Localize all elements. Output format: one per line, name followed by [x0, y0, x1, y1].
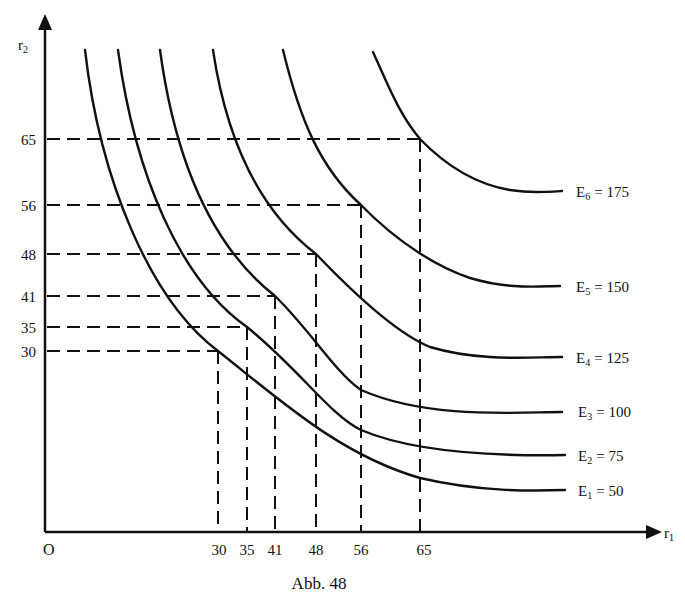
label-e2: E2= 75 [578, 448, 623, 466]
y-tick-labels: 65 56 48 41 35 30 [21, 132, 37, 360]
label-e6: E6= 175 [576, 184, 629, 202]
x-tick-65: 65 [417, 542, 432, 558]
curve-e6 [373, 52, 562, 192]
x-tick-35: 35 [240, 542, 255, 558]
isoquant-curves [85, 50, 565, 491]
y-tick-56: 56 [21, 198, 37, 214]
label-e3: E3= 100 [578, 404, 631, 422]
curve-labels: E6= 175 E5= 150 E4= 125 E3= 100 E2= 75 E… [576, 184, 631, 501]
y-axis-arrow-icon [38, 14, 52, 30]
x-tick-labels: 30 35 41 48 56 65 [212, 542, 432, 558]
curve-e2 [118, 50, 565, 455]
figure-caption: Abb. 48 [292, 574, 347, 593]
y-tick-41: 41 [21, 289, 36, 305]
guide-lines [47, 139, 420, 531]
origin-label: O [43, 541, 55, 558]
x-axis-label: r1 [664, 525, 674, 543]
label-e5: E5= 150 [576, 279, 629, 297]
y-axis-label: r2 [18, 37, 28, 55]
x-tick-30: 30 [212, 542, 227, 558]
curve-e4 [213, 50, 562, 358]
curve-e1 [85, 50, 565, 491]
x-tick-56: 56 [354, 542, 370, 558]
x-tick-48: 48 [309, 542, 324, 558]
label-e1: E1= 50 [578, 483, 623, 501]
y-tick-65: 65 [21, 132, 36, 148]
curve-e5 [283, 50, 560, 287]
x-tick-41: 41 [268, 542, 283, 558]
label-e4: E4= 125 [576, 350, 629, 368]
y-tick-35: 35 [21, 320, 36, 336]
y-tick-30: 30 [21, 344, 36, 360]
isoquant-diagram: r2 r1 O 65 56 48 41 35 30 30 35 41 48 56… [0, 0, 685, 600]
y-tick-48: 48 [21, 247, 36, 263]
x-axis-arrow-icon [646, 525, 662, 539]
